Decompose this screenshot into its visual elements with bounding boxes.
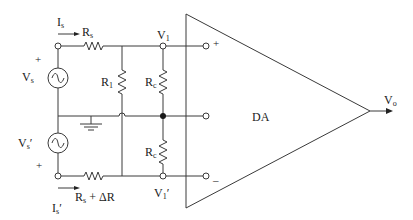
- amplifier-da-label: DA: [252, 111, 269, 123]
- vs-prime-plus-sign: +: [36, 160, 42, 171]
- circuit-diagram: Is Rs + Vs Vs′ + Rs + ΔR Is′ R1 Rc Rc V1…: [0, 0, 413, 220]
- resistor-rs-delta-label: Rs + ΔR: [75, 191, 115, 205]
- middle-wire: [58, 113, 203, 116]
- rs-delta-resistor-icon: [84, 172, 103, 180]
- vs-plus-sign: +: [35, 54, 41, 65]
- schematic-drawing: [0, 0, 413, 220]
- current-arrow-is-icon: [58, 32, 80, 36]
- terminal-top-left-icon: [55, 43, 61, 49]
- amp-input-plus-icon: [203, 43, 209, 49]
- node-v1-prime-label: V1′: [154, 187, 169, 201]
- output-vo-label: Vo: [384, 94, 397, 108]
- rc-bottom-resistor-icon: [159, 140, 167, 164]
- node-v1-prime-icon: [160, 173, 166, 179]
- amp-plus-sign: +: [213, 38, 219, 49]
- source-vs-label: Vs: [22, 71, 34, 85]
- rs-resistor-icon: [84, 42, 103, 50]
- current-is-label: Is: [57, 16, 64, 30]
- resistor-rc-bottom-label: Rc: [145, 146, 157, 160]
- junction-dot-icon: [160, 113, 166, 119]
- ground-icon: [80, 116, 102, 130]
- bottom-wire: [61, 172, 203, 180]
- resistor-rc-top-label: Rc: [145, 76, 157, 90]
- output-arrow-icon: [370, 108, 393, 114]
- node-v1-icon: [160, 43, 166, 49]
- terminal-bottom-left-icon: [55, 173, 61, 179]
- r1-resistor-icon: [118, 70, 126, 94]
- top-wire: [61, 42, 203, 50]
- resistor-rs-label: Rs: [82, 26, 93, 40]
- source-vs-prime-label: Vs′: [18, 137, 32, 151]
- node-v1-label: V1: [157, 29, 170, 43]
- rc-branch: [159, 43, 167, 179]
- r1-branch: [118, 46, 126, 176]
- amp-input-minus-icon: [203, 173, 209, 179]
- current-is-prime-label: Is′: [52, 202, 62, 216]
- rc-top-resistor-icon: [159, 70, 167, 94]
- amp-input-common-icon: [203, 113, 209, 119]
- source-branch: [48, 43, 68, 179]
- resistor-r1-label: R1: [101, 76, 113, 90]
- amp-minus-sign: –: [213, 175, 219, 186]
